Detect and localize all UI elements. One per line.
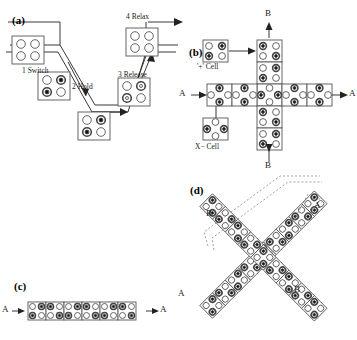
port-arrow-right <box>332 92 348 99</box>
port-label-a-right: A <box>349 88 356 98</box>
port-label-d-lower-left: A <box>178 288 185 298</box>
panel-b-graphic <box>185 18 357 178</box>
wire-chain <box>28 302 136 320</box>
panel-c: (c) <box>0 276 180 340</box>
arrow-plus-legend <box>229 48 256 55</box>
panel-d: (d) <box>168 172 357 340</box>
legend-plus-cell <box>203 40 228 62</box>
step-label-release: 3 Release <box>118 70 147 79</box>
panel-d-graphic <box>168 172 357 340</box>
port-label-c-right: A <box>160 304 167 314</box>
panel-c-graphic <box>0 276 180 340</box>
port-label-a-left: A <box>179 88 186 98</box>
panel-b: (b) <box>185 18 357 178</box>
step-label-relax: 4 Relax <box>126 12 149 21</box>
step-label-switch: 1 Switch <box>22 66 48 75</box>
port-label-d-upper-right: A <box>314 200 321 210</box>
port-arrow-top <box>266 22 273 38</box>
port-label-d-lower-right: B <box>294 284 300 294</box>
b-vertical-arm <box>257 40 282 150</box>
qca-figure: (a) <box>0 0 357 340</box>
panel-c-label: (c) <box>14 280 26 292</box>
port-label-b-bottom: B <box>265 160 271 170</box>
port-arrow-right-c <box>146 308 159 314</box>
legend-x-cell <box>203 118 228 140</box>
step-label-hold: 2 Hold <box>72 82 93 91</box>
cell-switch-polarized <box>38 72 70 100</box>
panel-d-label: (d) <box>190 184 203 196</box>
cell-switch <box>12 36 44 64</box>
arrow-relax-right <box>148 18 183 26</box>
cell-release <box>118 78 150 106</box>
port-arrow-left <box>191 92 207 99</box>
label-plus-cell: '+' Cell <box>197 62 218 71</box>
port-arrow-left-c <box>12 308 25 314</box>
port-label-c-left: A <box>2 304 9 314</box>
cell-hold <box>78 112 110 140</box>
panel-a: (a) <box>0 0 185 145</box>
label-x-cell: X− Cell <box>195 142 219 151</box>
port-label-b-top: B <box>265 8 271 18</box>
panel-b-label: (b) <box>189 46 202 58</box>
port-label-d-upper-left: B <box>206 208 212 218</box>
panel-a-label: (a) <box>12 14 25 26</box>
cell-relax <box>126 28 158 56</box>
